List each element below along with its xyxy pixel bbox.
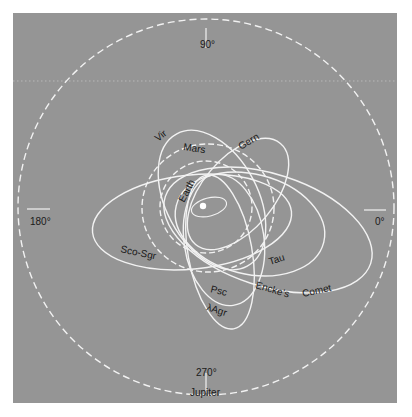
label-psc: Psc — [210, 283, 229, 298]
diagram-canvas: 90° 180° 0° 270° Jupiter Vir Mars Gern E… — [0, 0, 412, 417]
label-vir: Vir — [152, 127, 169, 143]
label-gern: Gern — [236, 131, 261, 152]
label-90-deg: 90° — [200, 39, 215, 50]
label-mars: Mars — [183, 141, 207, 155]
mars-orbit — [142, 144, 274, 272]
label-tau: Tau — [267, 251, 286, 266]
stream-tau-orbit — [164, 157, 336, 291]
inner-orbit — [189, 194, 228, 221]
label-jupiter: Jupiter — [190, 387, 221, 398]
label-earth: Earth — [176, 178, 197, 204]
label-sco-sgr: Sco-Sgr — [120, 243, 158, 261]
sun-icon — [200, 203, 206, 209]
label-encke-word1: Encke's — [254, 279, 290, 299]
label-180-deg: 180° — [30, 216, 51, 227]
orbit-diagram: 90° 180° 0° 270° Jupiter Vir Mars Gern E… — [0, 0, 412, 417]
label-lambda-agr: λAgr — [205, 301, 229, 318]
label-0-deg: 0° — [375, 216, 385, 227]
label-270-deg: 270° — [196, 367, 217, 378]
label-encke-word2: Comet — [301, 282, 332, 299]
